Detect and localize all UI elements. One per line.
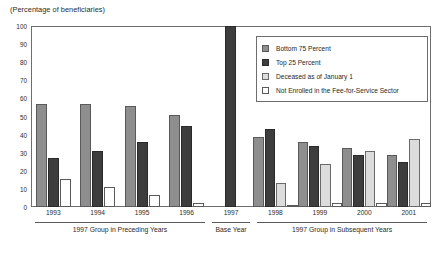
bar xyxy=(287,205,297,207)
legend-item-label: Deceased as of January 1 xyxy=(276,73,353,80)
bar xyxy=(169,115,180,207)
section-rule xyxy=(212,222,249,223)
bar xyxy=(104,187,115,207)
bar xyxy=(421,203,431,207)
section-label: 1997 Group in Preceding Years xyxy=(73,226,167,233)
chart-legend: Bottom 75 PercentTop 25 PercentDeceased … xyxy=(256,36,428,102)
bar xyxy=(376,203,386,207)
legend-item: Not Enrolled in the Fee-for-Service Sect… xyxy=(262,83,421,97)
x-axis-tick-label: 2001 xyxy=(401,209,416,216)
bar xyxy=(298,142,308,207)
bar xyxy=(125,106,136,207)
legend-item-label: Not Enrolled in the Fee-for-Service Sect… xyxy=(276,87,399,94)
bar xyxy=(60,179,71,207)
bar xyxy=(48,158,59,207)
x-axis-tick-label: 1999 xyxy=(313,209,328,216)
legend-swatch-icon xyxy=(262,59,269,66)
bar xyxy=(181,126,192,207)
bar-group xyxy=(31,26,75,207)
legend-item: Top 25 Percent xyxy=(262,55,421,69)
legend-swatch-icon xyxy=(262,45,269,52)
bar xyxy=(353,155,363,207)
legend-item-label: Top 25 Percent xyxy=(276,59,321,66)
bar xyxy=(365,151,375,207)
bar-group xyxy=(75,26,119,207)
bar xyxy=(137,142,148,207)
bar-group xyxy=(164,26,208,207)
y-axis-tick-label: 40 xyxy=(20,131,27,138)
bar xyxy=(80,104,91,207)
y-axis-tick-label: 50 xyxy=(20,113,27,120)
x-axis-tick-label: 1993 xyxy=(46,209,61,216)
bar-chart-figure: (Percentage of beneficiaries) 0102030405… xyxy=(0,0,441,255)
bar xyxy=(276,183,286,207)
bar xyxy=(398,162,408,207)
legend-item: Bottom 75 Percent xyxy=(262,41,421,55)
x-axis-tick-label: 1994 xyxy=(90,209,105,216)
bar xyxy=(149,195,160,207)
bar xyxy=(409,139,419,207)
y-axis-tick-label: 100 xyxy=(16,23,27,30)
section-rule xyxy=(257,222,428,223)
legend-swatch-icon xyxy=(262,73,269,80)
y-axis-caption: (Percentage of beneficiaries) xyxy=(10,5,105,14)
bar xyxy=(320,164,330,207)
bar xyxy=(36,104,47,207)
x-axis-labels: 199319941995199619971998199920002001 xyxy=(31,209,431,223)
bar xyxy=(265,129,275,207)
bar xyxy=(332,203,342,207)
y-axis-tick-label: 20 xyxy=(20,167,27,174)
bar xyxy=(309,146,319,207)
bar-group xyxy=(120,26,164,207)
bar xyxy=(253,137,263,207)
bar xyxy=(342,148,352,207)
bar xyxy=(92,151,103,207)
y-axis: 0102030405060708090100 xyxy=(0,26,31,207)
y-axis-tick-label: 80 xyxy=(20,59,27,66)
bar xyxy=(225,26,236,207)
legend-item-label: Bottom 75 Percent xyxy=(276,45,331,52)
section-label: 1997 Group in Subsequent Years xyxy=(292,226,392,233)
y-axis-tick-label: 0 xyxy=(23,204,27,211)
legend-swatch-icon xyxy=(262,87,269,94)
bar xyxy=(193,203,204,207)
section-rule xyxy=(35,222,206,223)
x-axis-tick-label: 1998 xyxy=(268,209,283,216)
y-axis-tick-label: 90 xyxy=(20,41,27,48)
bar xyxy=(387,155,397,207)
x-axis-tick-label: 2000 xyxy=(357,209,372,216)
y-axis-tick-label: 60 xyxy=(20,95,27,102)
x-axis-tick-label: 1995 xyxy=(135,209,150,216)
y-axis-tick-label: 10 xyxy=(20,185,27,192)
x-axis-tick-label: 1996 xyxy=(179,209,194,216)
y-axis-tick-label: 30 xyxy=(20,149,27,156)
x-axis-tick-label: 1997 xyxy=(224,209,239,216)
bar-group xyxy=(209,26,253,207)
legend-item: Deceased as of January 1 xyxy=(262,69,421,83)
x-axis-section-groups: 1997 Group in Preceding YearsBase Year19… xyxy=(31,222,431,252)
section-label: Base Year xyxy=(216,226,247,233)
y-axis-tick-label: 70 xyxy=(20,77,27,84)
